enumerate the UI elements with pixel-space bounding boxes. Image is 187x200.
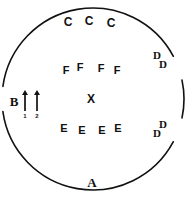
diagram-canvas: CCCFFFFXEEEEDDDDBA 1 2 xyxy=(0,0,187,200)
marker-c1: C xyxy=(64,16,73,28)
circle-arc-segment xyxy=(182,80,184,118)
marker-f3: F xyxy=(98,63,105,74)
marker-f4: F xyxy=(114,65,121,76)
arrow-marker-group: 1 2 xyxy=(21,90,43,118)
marker-d4: D xyxy=(153,128,161,139)
marker-x1: X xyxy=(87,93,95,105)
marker-e1: E xyxy=(60,123,67,134)
arrow-1-index-label: 1 xyxy=(23,113,26,119)
arrow-shafts-icon xyxy=(21,90,43,112)
marker-c3: C xyxy=(107,17,116,29)
arrow-head-1-icon xyxy=(22,90,28,95)
marker-f2: F xyxy=(77,62,84,73)
marker-a1: A xyxy=(87,176,96,189)
arrow-2-index-label: 2 xyxy=(35,113,38,119)
marker-f1: F xyxy=(63,65,70,76)
marker-d2: D xyxy=(159,59,167,70)
marker-b1: B xyxy=(10,95,19,108)
marker-e3: E xyxy=(98,125,105,136)
marker-e2: E xyxy=(78,125,85,136)
arrow-head-2-icon xyxy=(34,90,40,95)
marker-e4: E xyxy=(114,123,121,134)
marker-c2: C xyxy=(85,15,94,27)
